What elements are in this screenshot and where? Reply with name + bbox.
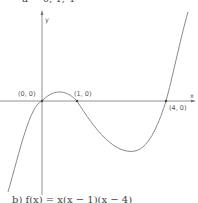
point-label: (4, 0): [169, 104, 186, 112]
y-axis-label: y: [45, 16, 49, 24]
point-label: (0, 0): [18, 90, 35, 98]
bottom-caption: b) f(x) = x(x − 1)(x − 4): [12, 194, 132, 203]
root-point: [76, 100, 78, 102]
point-label: (1, 0): [74, 90, 91, 98]
y-axis-arrow-icon: [41, 10, 44, 15]
root-point: [41, 100, 43, 102]
cubic-graph: y x (0, 0) (1, 0) (4, 0): [0, 0, 198, 203]
function-curve: [8, 12, 188, 192]
x-axis-label: x: [190, 92, 194, 100]
root-point: [165, 100, 167, 102]
